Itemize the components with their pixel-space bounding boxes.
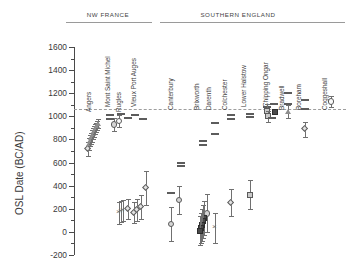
site-label-vieux-port-auges: Vieux Port Auges — [130, 58, 137, 107]
error-bar-cap — [213, 243, 218, 244]
site-label-brixworth: Brixworth — [193, 83, 200, 110]
y-axis-tick — [69, 47, 74, 48]
y-axis-tick — [69, 139, 74, 140]
data-marker-circle-open — [116, 118, 122, 124]
site-label-canterbury: Canterbury — [167, 78, 174, 110]
error-bar-cap — [329, 96, 334, 97]
group-rule-nw-france — [66, 22, 152, 23]
error-bar-cap — [92, 137, 97, 138]
data-marker-bar — [227, 118, 235, 120]
data-marker-diamond — [227, 199, 234, 206]
site-label-rugles: Rugles — [115, 92, 122, 112]
y-axis-minor-tick — [71, 243, 74, 244]
y-axis-minor-tick — [71, 105, 74, 106]
site-label-mont-saint-michel: Mont Saint Michel — [104, 56, 111, 107]
data-marker-bar — [177, 162, 185, 164]
data-marker-bar — [139, 118, 147, 120]
data-marker-bar — [199, 140, 207, 142]
error-bar-cap — [198, 245, 203, 246]
data-marker-square — [247, 192, 253, 198]
error-bar-cap — [169, 241, 174, 242]
error-bar-cap — [121, 221, 126, 222]
data-marker-tri — [95, 121, 101, 126]
site-label-chipping-ongar: Chipping Ongar — [262, 62, 269, 107]
y-axis-title: OSL Date (BC/AD) — [14, 131, 25, 215]
y-axis-minor-tick — [71, 59, 74, 60]
error-bar-cap — [205, 194, 210, 195]
error-bar-cap — [135, 221, 140, 222]
site-label-coggeshall: Coggeshall — [321, 78, 328, 110]
error-bar-cap — [266, 122, 271, 123]
error-bar-cap — [126, 199, 131, 200]
y-axis-tick-label: 0 — [30, 227, 67, 237]
data-marker-bar — [268, 117, 276, 119]
y-axis-tick-label: 600 — [30, 158, 67, 168]
error-bar-cap — [89, 144, 94, 145]
error-bar-cap — [144, 171, 149, 172]
y-axis-minor-tick — [71, 220, 74, 221]
osl-date-chart: NW FRANCE SOUTHERN ENGLAND OSL Date (BC/… — [0, 0, 351, 275]
y-axis-tick — [69, 232, 74, 233]
y-axis-tick — [69, 255, 74, 256]
y-axis-minor-tick — [71, 151, 74, 152]
y-axis-tick-label: 1600 — [30, 42, 67, 52]
data-marker-bar — [246, 113, 254, 115]
error-bar-cap — [303, 137, 308, 138]
y-axis-tick-label: 1000 — [30, 111, 67, 121]
error-bar-cap — [213, 213, 218, 214]
data-marker-square-dark — [197, 228, 203, 234]
data-marker-bar — [246, 116, 254, 118]
error-bar-cap — [126, 219, 131, 220]
y-axis-tick — [69, 209, 74, 210]
site-label-colchester: Colchester — [221, 79, 228, 110]
y-axis-tick-label: 1200 — [30, 88, 67, 98]
error-bar-cap — [93, 134, 98, 135]
error-bar-cap — [303, 122, 308, 123]
data-marker-bar — [227, 114, 235, 116]
error-bar-cap — [86, 156, 91, 157]
data-marker-bar — [131, 114, 139, 116]
site-label-boreham: Boreham — [295, 84, 302, 110]
error-bar-cap — [286, 118, 291, 119]
data-marker-tri — [285, 109, 291, 114]
data-marker-bar — [211, 122, 219, 124]
error-bar-cap — [117, 127, 122, 128]
error-bar-cap — [132, 223, 137, 224]
site-label-lower-halstow: Lower Halstow — [240, 65, 247, 107]
data-marker-circle — [168, 221, 174, 227]
error-bar-cap — [202, 201, 207, 202]
y-axis-tick-label: -200 — [30, 250, 67, 260]
group-header-southern-england: SOUTHERN ENGLAND — [178, 11, 298, 18]
error-bar-cap — [266, 111, 271, 112]
error-bar-cap — [94, 132, 99, 133]
error-bar-cap — [229, 189, 234, 190]
data-marker-cross: × — [212, 224, 217, 230]
data-marker-bar — [117, 113, 125, 115]
error-bar-cap — [177, 214, 182, 215]
y-axis-tick-label: 400 — [30, 181, 67, 191]
data-marker-diamond — [301, 125, 308, 132]
error-bar-cap — [119, 222, 124, 223]
error-bar-cap — [90, 142, 95, 143]
error-bar-cap — [96, 128, 101, 129]
data-marker-bar — [106, 118, 114, 120]
y-axis-minor-tick — [71, 197, 74, 198]
y-axis-minor-tick — [71, 174, 74, 175]
y-axis-tick — [69, 70, 74, 71]
error-bar-cap — [265, 104, 270, 105]
y-axis-tick-label: 800 — [30, 134, 67, 144]
error-bar-cap — [248, 209, 253, 210]
data-marker-bar — [301, 99, 309, 101]
error-bar-cap — [205, 232, 210, 233]
error-bar-cap — [95, 130, 100, 131]
error-bar-cap — [88, 146, 93, 147]
error-bar-cap — [117, 224, 122, 225]
site-label-bradwell: Bradwell — [278, 85, 285, 110]
y-axis-tick-label: 200 — [30, 204, 67, 214]
error-bar-cap — [248, 180, 253, 181]
y-axis-tick — [69, 186, 74, 187]
error-bar-cap — [286, 105, 291, 106]
y-axis-tick — [69, 93, 74, 94]
error-bar-cap — [200, 209, 205, 210]
data-marker-circle-open — [328, 98, 334, 104]
